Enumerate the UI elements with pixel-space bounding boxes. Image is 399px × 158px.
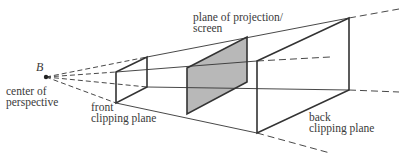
center-of-perspective-label: center of perspective xyxy=(6,86,58,108)
projection-plane-label: plane of projection/ screen xyxy=(193,12,283,34)
projection-label-line2: screen xyxy=(193,23,283,34)
center-label-line2: perspective xyxy=(6,97,58,108)
point-label: B xyxy=(36,62,43,73)
back-clipping-plane-label: back clipping plane xyxy=(309,112,374,134)
front-clipping-plane xyxy=(116,57,147,103)
perspective-diagram: B center of perspective front clipping p… xyxy=(0,0,399,158)
back-label-line2: clipping plane xyxy=(309,123,374,134)
projection-plane xyxy=(187,37,247,114)
center-of-perspective-point xyxy=(44,75,48,79)
front-clipping-plane-label: front clipping plane xyxy=(91,102,156,124)
front-label-line2: clipping plane xyxy=(91,113,156,124)
